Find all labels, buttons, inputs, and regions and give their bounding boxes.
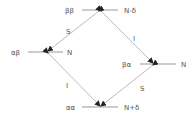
transition-ab-aa-arrow [48, 53, 100, 106]
energy-label-ab: N [67, 49, 72, 57]
transition-bb-ab-arrow [48, 11, 99, 51]
transition-label-ba-aa: S [140, 85, 145, 93]
energy-label-bb: N-δ [124, 7, 136, 15]
state-label-aa: αα [66, 104, 76, 112]
transition-ba-aa-arrow [101, 65, 153, 106]
transition-label-bb-ab: S [66, 28, 71, 36]
energy-level-diagram: ββ N-δ αβ N βα N αα N+δ S I I S [0, 0, 195, 119]
energy-label-aa: N+δ [124, 104, 139, 112]
transition-label-bb-ba: I [133, 35, 135, 43]
energy-label-ba: N [181, 61, 186, 69]
state-label-ab: αβ [11, 49, 20, 57]
transition-label-ab-aa: I [66, 82, 68, 90]
state-label-bb: ββ [65, 7, 74, 15]
transition-bb-ba-arrow [101, 11, 153, 63]
state-label-ba: βα [122, 61, 131, 69]
